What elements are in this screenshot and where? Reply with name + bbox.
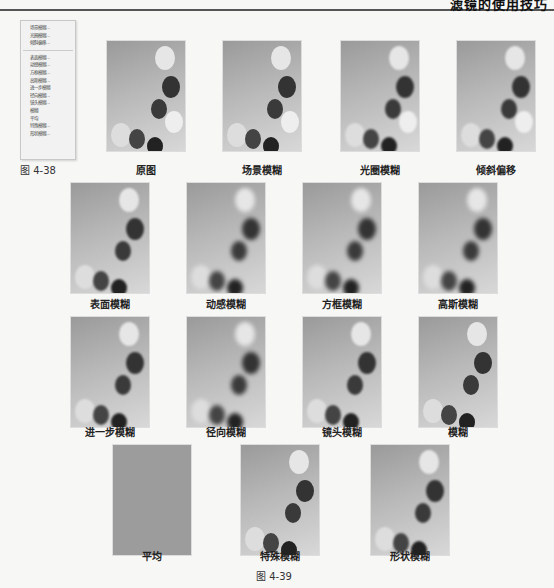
caption-average: 平均 bbox=[102, 548, 202, 563]
image-lens-blur bbox=[302, 316, 382, 428]
menu-item[interactable]: 进一步模糊 bbox=[21, 84, 75, 92]
image-surface-blur bbox=[70, 182, 150, 294]
image-shape-blur bbox=[370, 444, 450, 556]
caption-motion-blur: 动感模糊 bbox=[176, 296, 276, 311]
image-average bbox=[112, 444, 192, 556]
menu-item[interactable]: 模糊 bbox=[21, 107, 75, 115]
menu-item[interactable]: 场景模糊... bbox=[21, 24, 75, 32]
menu-item[interactable]: 高斯模糊... bbox=[21, 77, 75, 85]
image-tilt-shift bbox=[456, 40, 536, 152]
image-box-blur bbox=[302, 182, 382, 294]
image-motion-blur bbox=[186, 182, 266, 294]
caption-blur: 模糊 bbox=[408, 424, 508, 439]
blur-filter-menu: 场景模糊... 光圈模糊... 倾斜偏移... 表面模糊... 动感模糊... … bbox=[20, 20, 76, 160]
caption-lens-blur: 镜头模糊 bbox=[292, 424, 392, 439]
caption-smart-blur: 特殊模糊 bbox=[230, 548, 330, 563]
caption-box-blur: 方框模糊 bbox=[292, 296, 392, 311]
menu-item[interactable]: 光圈模糊... bbox=[21, 32, 75, 40]
menu-item[interactable]: 平均 bbox=[21, 115, 75, 123]
image-field-blur bbox=[222, 40, 302, 152]
menu-item[interactable]: 镜头模糊... bbox=[21, 99, 75, 107]
image-original bbox=[106, 40, 186, 152]
caption-shape-blur: 形状模糊 bbox=[360, 548, 460, 563]
menu-item[interactable]: 倾斜偏移... bbox=[21, 39, 75, 47]
caption-original: 原图 bbox=[96, 162, 196, 177]
image-blur-more bbox=[70, 316, 150, 428]
menu-item[interactable]: 方框模糊... bbox=[21, 69, 75, 77]
caption-radial-blur: 径向模糊 bbox=[176, 424, 276, 439]
caption-tilt-shift: 倾斜偏移 bbox=[446, 162, 546, 177]
image-blur bbox=[418, 316, 498, 428]
caption-surface-blur: 表面模糊 bbox=[60, 296, 160, 311]
menu-item[interactable]: 特殊模糊... bbox=[21, 122, 75, 130]
image-gaussian-blur bbox=[418, 182, 498, 294]
image-radial-blur bbox=[186, 316, 266, 428]
menu-separator bbox=[23, 50, 73, 51]
caption-field-blur: 场景模糊 bbox=[212, 162, 312, 177]
figure-caption-38: 图 4-38 bbox=[20, 162, 56, 177]
menu-item[interactable]: 动感模糊... bbox=[21, 61, 75, 69]
caption-blur-more: 进一步模糊 bbox=[60, 424, 160, 439]
caption-iris-blur: 光圈模糊 bbox=[330, 162, 430, 177]
menu-item[interactable]: 径向模糊... bbox=[21, 92, 75, 100]
page-header: 滤镜的使用技巧 bbox=[0, 0, 554, 12]
menu-item[interactable]: 形状模糊... bbox=[21, 130, 75, 138]
caption-gaussian-blur: 高斯模糊 bbox=[408, 296, 508, 311]
chapter-title: 滤镜的使用技巧 bbox=[450, 0, 548, 13]
figure-caption-39: 图 4-39 bbox=[256, 568, 292, 583]
image-iris-blur bbox=[340, 40, 420, 152]
image-smart-blur bbox=[240, 444, 320, 556]
menu-item[interactable]: 表面模糊... bbox=[21, 54, 75, 62]
